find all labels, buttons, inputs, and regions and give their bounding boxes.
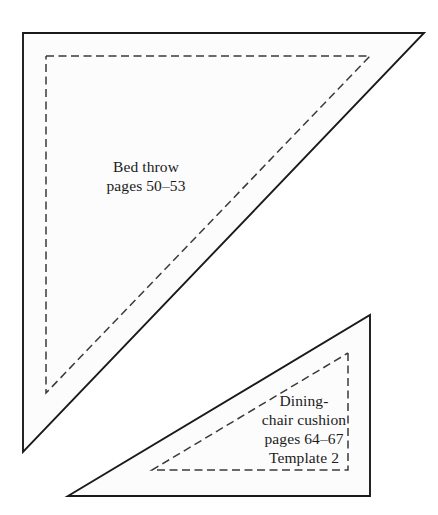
label-dining-chair-line-3: pages 64–67 [238, 430, 370, 449]
template-sheet-page: Bed throw pages 50–53 Dining- chair cush… [0, 0, 438, 515]
label-dining-chair-line-2: chair cushion [238, 411, 370, 430]
label-bed-throw: Bed throw pages 50–53 [78, 158, 214, 196]
label-bed-throw-line-1: Bed throw [78, 158, 214, 177]
label-dining-chair-line-1: Dining- [238, 392, 370, 411]
label-dining-chair-cushion: Dining- chair cushion pages 64–67 Templa… [238, 392, 370, 468]
label-bed-throw-line-2: pages 50–53 [78, 177, 214, 196]
template-diagram [0, 0, 438, 515]
label-dining-chair-line-4: Template 2 [238, 449, 370, 468]
